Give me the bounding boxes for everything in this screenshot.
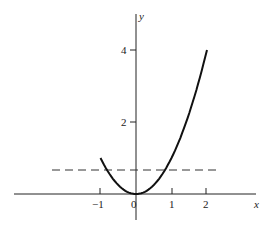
y-tick-label: 4: [121, 44, 127, 56]
x-axis-label: x: [253, 198, 259, 210]
parabola-curve: [101, 50, 208, 194]
x-tick-label: 0: [131, 198, 137, 210]
y-tick-label: 2: [121, 116, 127, 128]
x-tick-label: −1: [92, 198, 104, 210]
chart-canvas: −1 0 1 2 4 2 x y: [0, 0, 275, 231]
y-axis-label: y: [138, 10, 144, 22]
x-tick-label: 1: [169, 198, 175, 210]
x-tick-label: 2: [203, 198, 209, 210]
